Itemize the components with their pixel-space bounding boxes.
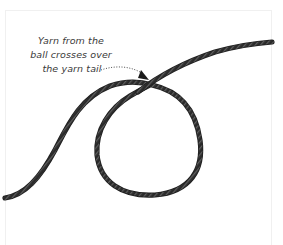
annotation-line: the yarn tail: [28, 62, 114, 76]
illustration-frame: Yarn from the ball crosses over the yarn…: [0, 0, 283, 245]
annotation-callout: Yarn from the ball crosses over the yarn…: [28, 34, 114, 76]
annotation-line: Yarn from the: [28, 34, 114, 48]
yarn-tail: [5, 82, 201, 198]
annotation-line: ball crosses over: [28, 48, 114, 62]
